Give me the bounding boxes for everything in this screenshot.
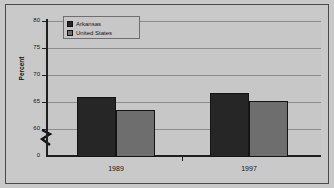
bar-united-states-1997 [249,101,288,157]
xtick-label-1989: 1989 [91,165,141,172]
legend-label-arkansas: Arkansas [76,20,101,28]
bar-arkansas-1997 [210,93,249,157]
bar-united-states-1989 [116,110,155,157]
ytick-label-60: 60 [14,125,40,132]
y-axis-line [46,19,48,157]
legend-label-united-states: United States [76,29,112,37]
bar-arkansas-1989 [77,97,116,157]
legend-item-arkansas: Arkansas [67,19,136,28]
gridline-75 [46,48,321,49]
ytick-label-65: 65 [14,98,40,105]
xtick-middle [182,157,183,161]
chart-frame: 80 75 70 65 60 0 Percent 1989 1997 Arkan… [5,4,329,184]
ytick-label-80: 80 [14,17,40,24]
chart-figure: 80 75 70 65 60 0 Percent 1989 1997 Arkan… [0,0,334,188]
xtick-label-1997: 1997 [224,165,274,172]
legend-swatch-icon-united-states [67,30,73,36]
chart-legend: Arkansas United States [63,16,140,39]
gridline-70 [46,75,321,76]
ytick-label-0: 0 [14,152,40,159]
legend-item-united-states: United States [67,28,136,37]
legend-swatch-icon-arkansas [67,21,73,27]
y-axis-title: Percent [18,46,25,92]
